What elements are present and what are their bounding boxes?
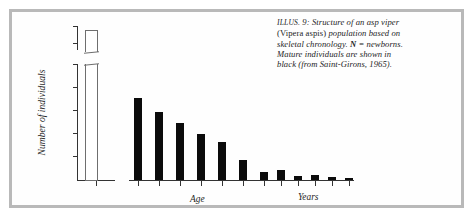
y-axis-tick-4 [73, 110, 78, 111]
x-axis-tick-6 [264, 181, 265, 186]
newborn-group-tick-0 [96, 181, 97, 186]
x-axis-tick-9 [315, 181, 316, 186]
x-axis-tick-7 [281, 181, 282, 186]
bar-age-11 [328, 177, 336, 180]
x-axis-tick-11 [349, 181, 350, 186]
newborn-bar-upper [85, 30, 98, 52]
plot-area: Age Years [12, 12, 461, 205]
bar-age-9 [294, 176, 302, 180]
y-axis-tick-3 [73, 87, 78, 88]
y-axis-tick-0 [73, 26, 78, 27]
y-axis-lower-segment [77, 64, 78, 180]
y-axis-tick-6 [73, 156, 78, 157]
x-axis-tick-4 [222, 181, 223, 186]
x-axis-tick-0 [138, 181, 139, 186]
x-axis-label-years: Years [298, 192, 319, 202]
x-axis-line [129, 180, 354, 181]
y-axis-tick-1 [73, 43, 78, 44]
y-axis-upper-segment [77, 26, 78, 50]
bar-age-12 [345, 178, 353, 180]
x-axis-label-age: Age [190, 194, 205, 204]
bar-age-10 [311, 175, 319, 180]
bar-age-1 [134, 98, 142, 180]
figure-inner: ILLUS. 9: Structure of an asp viper (Vip… [12, 12, 461, 205]
axis-break-mark-0 [84, 51, 99, 54]
bar-age-7 [260, 172, 268, 180]
bar-age-2 [155, 112, 163, 180]
bar-age-6 [239, 160, 247, 180]
x-axis-tick-3 [201, 181, 202, 186]
x-axis-tick-10 [332, 181, 333, 186]
y-axis-tick-5 [73, 133, 78, 134]
x-axis-tick-5 [243, 181, 244, 186]
y-axis-tick-2 [73, 64, 78, 65]
bar-age-8 [277, 170, 285, 180]
bar-age-5 [218, 142, 226, 180]
bar-age-3 [176, 123, 184, 180]
figure-frame: ILLUS. 9: Structure of an asp viper (Vip… [9, 9, 464, 208]
x-axis-tick-1 [159, 181, 160, 186]
x-axis-tick-2 [180, 181, 181, 186]
x-axis-tick-8 [298, 181, 299, 186]
bar-age-4 [197, 134, 205, 180]
newborn-bar-lower [85, 64, 98, 181]
